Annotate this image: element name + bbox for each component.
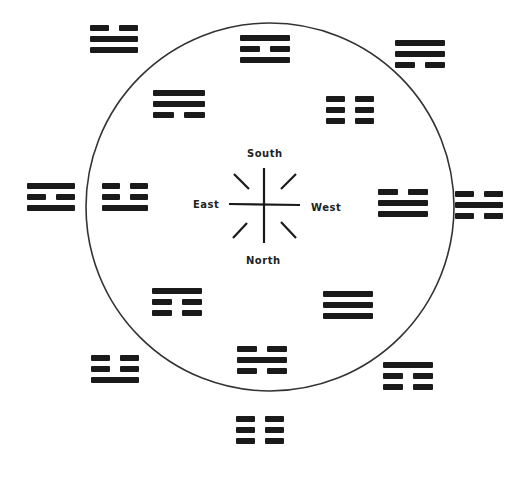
line-segment: [130, 183, 148, 189]
yin-line: [237, 368, 287, 374]
yang-line: [378, 200, 428, 206]
yin-line: [326, 96, 374, 102]
trigram-outer-top-left: [90, 25, 138, 58]
trigram-inner-bottom: [237, 346, 287, 379]
line-segment: [236, 438, 255, 444]
line-segment: [102, 183, 120, 189]
yang-line: [102, 205, 148, 211]
yin-line: [102, 194, 148, 200]
yin-line: [326, 107, 374, 113]
line-segment: [378, 211, 428, 217]
compass-label-north: North: [246, 255, 281, 266]
line-segment: [56, 194, 75, 200]
line-segment: [383, 384, 403, 390]
line-segment: [152, 310, 172, 316]
yin-line: [236, 438, 284, 444]
line-segment: [90, 47, 138, 53]
line-segment: [102, 194, 120, 200]
outer-circle: [0, 0, 524, 480]
trigram-inner-lower-right: [323, 291, 373, 324]
line-segment: [270, 46, 290, 52]
line-segment: [90, 25, 109, 31]
yang-line: [383, 362, 433, 368]
line-segment: [413, 384, 433, 390]
trigram-outer-bottom: [236, 416, 284, 449]
line-segment: [236, 427, 255, 433]
trigram-outer-top-right: [395, 40, 445, 73]
line-segment: [355, 107, 374, 113]
line-segment: [378, 189, 398, 195]
yin-line: [236, 416, 284, 422]
line-segment: [413, 373, 433, 379]
yin-line: [326, 118, 374, 124]
yang-line: [455, 202, 503, 208]
line-segment: [265, 416, 284, 422]
compass-diagonal-se: [233, 223, 247, 238]
line-segment: [237, 357, 287, 363]
compass-diagonal-ne: [234, 174, 249, 189]
line-segment: [383, 373, 403, 379]
line-segment: [326, 96, 345, 102]
trigram-inner-right: [378, 189, 428, 222]
line-segment: [120, 355, 139, 361]
line-segment: [455, 202, 503, 208]
yin-line: [91, 366, 139, 372]
line-segment: [265, 438, 284, 444]
line-segment: [425, 62, 445, 68]
line-segment: [91, 377, 139, 383]
yin-line: [455, 213, 503, 219]
line-segment: [240, 35, 290, 41]
yin-line: [102, 183, 148, 189]
line-segment: [182, 310, 202, 316]
yang-line: [237, 357, 287, 363]
trigram-inner-top: [240, 35, 290, 68]
line-segment: [153, 101, 205, 107]
compass-label-west: West: [311, 202, 341, 213]
yin-line: [27, 194, 75, 200]
line-segment: [130, 194, 148, 200]
line-segment: [236, 416, 255, 422]
yang-line: [153, 101, 205, 107]
trigram-inner-upper-right: [326, 96, 374, 129]
yin-line: [395, 62, 445, 68]
yin-line: [237, 346, 287, 352]
line-segment: [455, 213, 474, 219]
line-segment: [267, 346, 287, 352]
bagua-diagram: South East West North: [0, 0, 524, 480]
compass-label-east: East: [193, 199, 219, 210]
line-segment: [153, 112, 174, 118]
line-segment: [240, 46, 260, 52]
trigram-outer-bottom-right: [383, 362, 433, 395]
yang-line: [152, 288, 202, 294]
line-segment: [27, 194, 46, 200]
yin-line: [90, 25, 138, 31]
yang-line: [323, 291, 373, 297]
line-segment: [323, 302, 373, 308]
yang-line: [240, 35, 290, 41]
line-segment: [91, 366, 110, 372]
line-segment: [395, 40, 445, 46]
yin-line: [236, 427, 284, 433]
line-segment: [27, 205, 75, 211]
yin-line: [152, 310, 202, 316]
yin-line: [455, 191, 503, 197]
trigram-outer-left: [27, 183, 75, 216]
line-segment: [326, 118, 345, 124]
line-segment: [323, 313, 373, 319]
line-segment: [240, 57, 290, 63]
trigram-inner-left: [102, 183, 148, 216]
line-segment: [383, 362, 433, 368]
trigram-outer-bottom-left: [91, 355, 139, 388]
line-segment: [90, 36, 138, 42]
line-segment: [355, 118, 374, 124]
line-segment: [153, 90, 205, 96]
line-segment: [355, 96, 374, 102]
yin-line: [383, 373, 433, 379]
line-segment: [484, 213, 503, 219]
line-segment: [395, 62, 415, 68]
line-segment: [120, 366, 139, 372]
line-segment: [91, 355, 110, 361]
compass-diagonal-sw: [281, 222, 296, 238]
line-segment: [395, 51, 445, 57]
yang-line: [27, 183, 75, 189]
